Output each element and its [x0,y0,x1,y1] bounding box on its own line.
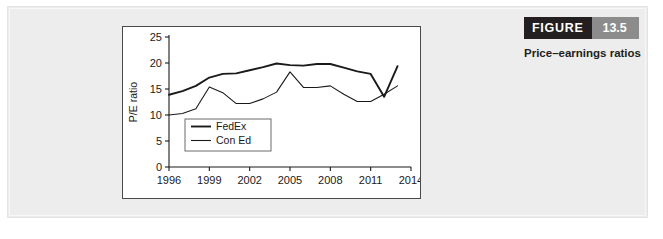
x-tick-label: 2005 [278,174,302,186]
series-line-fedex [169,64,398,97]
x-tick-label: 2002 [237,174,261,186]
x-tick-label: 1996 [157,174,181,186]
x-tick-label: 1999 [197,174,221,186]
x-tick-label: 2008 [318,174,342,186]
pe-ratio-line-chart: 05101520251996199920022005200820112014P/… [123,27,420,198]
figure-screenshot: 05101520251996199920022005200820112014P/… [0,0,663,239]
figure-badge: FIGURE 13.5 [524,17,648,39]
y-tick-label: 0 [156,161,162,173]
chart-container: 05101520251996199920022005200820112014P/… [122,26,421,199]
legend-label-con-ed: Con Ed [216,134,251,146]
y-tick-label: 15 [150,83,162,95]
y-axis-title: P/E ratio [127,82,139,122]
y-tick-label: 10 [150,109,162,121]
figure-caption: Price–earnings ratios [524,46,654,60]
figure-label-word: FIGURE [524,17,592,39]
x-tick-label: 2011 [359,174,383,186]
y-tick-label: 20 [150,57,162,69]
figure-number: 13.5 [592,17,638,39]
legend-label-fedex: FedEx [216,120,247,132]
y-tick-label: 5 [156,135,162,147]
y-tick-label: 25 [150,31,162,43]
series-line-con-ed [169,72,398,115]
x-tick-label: 2014 [399,174,420,186]
